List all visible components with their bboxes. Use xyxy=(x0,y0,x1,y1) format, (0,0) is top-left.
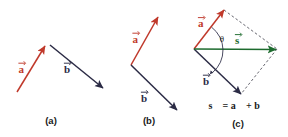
panel-c-vector-s-arrow xyxy=(194,49,276,50)
panel-c-equation: s⃗ = a⃗ + b⃗ xyxy=(208,100,267,111)
vector-addition-figure: a b (a) a b xyxy=(0,0,288,137)
panel-c-theta-symbol: θ xyxy=(220,34,224,44)
panel-c-vector-s-glyph: s xyxy=(235,34,240,46)
panel-c-vector-b-label: b xyxy=(203,74,210,87)
panel-c-equation-text: s⃗ = a⃗ + b⃗ xyxy=(208,100,267,111)
panel-a-caption: (a) xyxy=(45,115,57,126)
panel-b-vector-b-label: b xyxy=(141,91,148,104)
panel-c-caption: (c) xyxy=(232,118,244,129)
panel-c-vector-a-glyph: a xyxy=(198,17,204,29)
panel-b-caption: (b) xyxy=(143,115,155,126)
panel-a-vector-b-label: b xyxy=(64,62,71,75)
figure-canvas: a b (a) a b xyxy=(0,0,288,137)
